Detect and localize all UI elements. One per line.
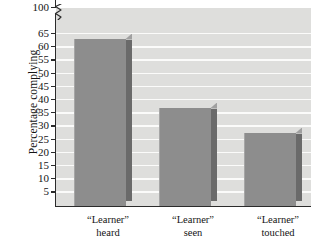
- x-label-learner-touched: “Learner” touched: [226, 214, 330, 239]
- bar-side-face: [210, 109, 217, 201]
- bar-front-face: [159, 108, 211, 206]
- y-tick-mark-55: [51, 59, 56, 60]
- bar-side-face: [125, 40, 132, 201]
- x-label-line2: touched: [226, 227, 330, 240]
- y-tick-mark-20: [51, 152, 56, 153]
- y-tick-mark-100: [51, 7, 56, 8]
- y-tick-label-65: 65: [38, 28, 49, 39]
- y-axis-tick-labels: 100 65 60 55 50 45 40 35 30 25 20 15 10 …: [16, 0, 52, 210]
- y-tick-mark-5: [51, 191, 56, 192]
- bar-chart: Percentage complying 100 65 60 55 50 45 …: [0, 0, 332, 246]
- y-tick-mark-25: [51, 139, 56, 140]
- y-tick-mark-15: [51, 165, 56, 166]
- y-tick-mark-65: [51, 33, 56, 34]
- y-tick-mark-60: [51, 46, 56, 47]
- x-axis-labels: “Learner” heard “Learner” seen “Learner”…: [56, 210, 312, 246]
- y-axis-line: [55, 14, 56, 206]
- y-tick-label-60: 60: [38, 41, 49, 52]
- plot-area: [56, 8, 311, 206]
- y-tick-label-35: 35: [38, 107, 49, 118]
- x-label-line1: “Learner”: [226, 214, 330, 227]
- y-tick-mark-45: [51, 86, 56, 87]
- y-tick-label-10: 10: [38, 173, 49, 184]
- y-tick-mark-50: [51, 73, 56, 74]
- y-tick-mark-35: [51, 112, 56, 113]
- y-tick-label-20: 20: [38, 146, 49, 157]
- y-tick-mark-40: [51, 99, 56, 100]
- x-axis-line: [55, 206, 311, 207]
- bar-front-face: [244, 133, 296, 206]
- y-tick-label-50: 50: [38, 67, 49, 78]
- y-tick-label-55: 55: [38, 54, 49, 65]
- y-tick-label-45: 45: [38, 80, 49, 91]
- y-tick-mark-30: [51, 125, 56, 126]
- bar-front-face: [74, 39, 126, 206]
- bar-learner-seen: [159, 103, 210, 206]
- y-tick-label-30: 30: [38, 120, 49, 131]
- y-tick-label-100: 100: [33, 2, 50, 13]
- bar-side-face: [295, 134, 302, 201]
- y-tick-label-25: 25: [38, 133, 49, 144]
- y-tick-label-40: 40: [38, 94, 49, 105]
- bar-learner-heard: [74, 34, 125, 206]
- y-tick-label-5: 5: [44, 186, 50, 197]
- bar-learner-touched: [244, 128, 295, 206]
- y-tick-mark-10: [51, 178, 56, 179]
- y-tick-label-15: 15: [38, 160, 49, 171]
